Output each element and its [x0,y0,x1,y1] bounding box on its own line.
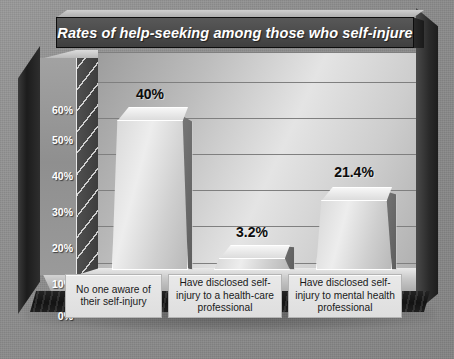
chart-left-3d-edge [18,46,40,314]
bar-disclosed-healthcare[interactable]: 3.2% [214,258,290,270]
y-tick-40: 40% [39,170,73,182]
y-tick-50: 50% [39,134,73,146]
chart-title: Rates of help-seeking among those who se… [57,25,412,41]
y-axis-front-face: 60% 50% 40% 30% 20% 10% 0% [40,58,77,275]
category-label-1: No one aware of their self-injury [65,274,162,318]
y-axis-hatched-side [77,58,98,275]
category-label-2: Have disclosed self-injury to a health-c… [168,274,282,318]
gridline-60 [94,52,416,53]
chart-title-plate: Rates of help-seeking among those who se… [56,10,424,48]
bar-value-label-1: 40% [105,86,195,102]
gridline-50 [94,82,416,83]
bar-front-face-2 [214,258,290,270]
bar-chart: 60% 50% 40% 30% 20% 10% 0% 40% 3.2% 21.4… [18,6,438,314]
y-tick-60: 60% [39,104,73,116]
bar-disclosed-mental-health[interactable]: 21.4% [316,200,392,270]
y-axis: 60% 50% 40% 30% 20% 10% 0% [40,50,98,275]
bar-front-face-3 [316,200,392,270]
category-label-3: Have disclosed self-injury to mental hea… [288,274,402,318]
y-tick-20: 20% [39,242,73,254]
bar-value-label-2: 3.2% [207,224,297,240]
chart-right-3d-edge [416,8,438,312]
bar-front-face-1 [112,120,188,270]
title-plate-face: Rates of help-seeking among those who se… [56,17,414,48]
bar-no-one-aware[interactable]: 40% [112,120,188,270]
bar-value-label-3: 21.4% [309,164,399,180]
y-tick-30: 30% [39,206,73,218]
